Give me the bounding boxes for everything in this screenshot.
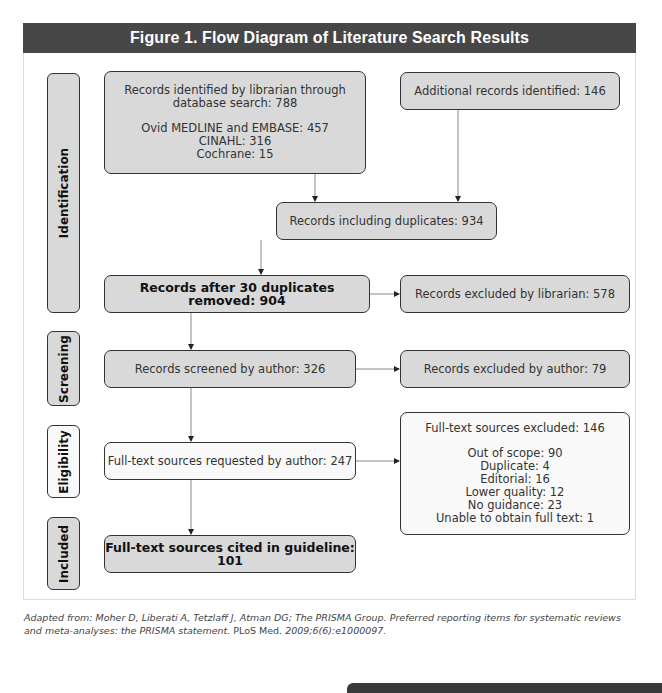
caption-citation: 2009;6(6):e1000097. bbox=[282, 625, 386, 636]
figure-caption: Adapted from: Moher D, Liberati A, Tetzl… bbox=[24, 611, 634, 637]
caption-journal: PLoS Med. bbox=[233, 625, 282, 636]
next-figure-bar bbox=[347, 683, 662, 693]
